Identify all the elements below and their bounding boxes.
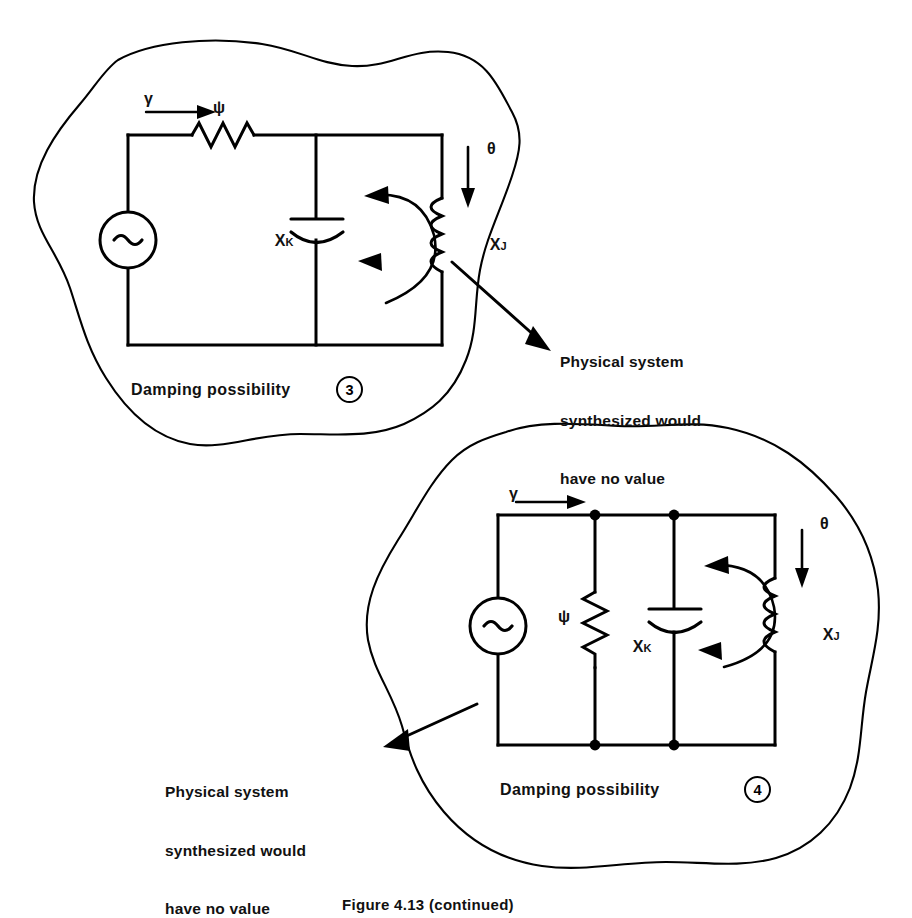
note-upper: Physical system synthesized would have n… xyxy=(560,313,701,528)
figure-caption: Figure 4.13 (continued) xyxy=(342,896,514,913)
note-lower: Physical system synthesized would have n… xyxy=(165,743,306,918)
callout-arrow-lower-head xyxy=(383,729,410,751)
note-upper-line-3: have no value xyxy=(560,469,701,489)
note-upper-line-1: Physical system xyxy=(560,352,701,372)
note-lower-line-2: synthesized would xyxy=(165,841,306,861)
note-upper-line-2: synthesized would xyxy=(560,411,701,431)
note-lower-line-1: Physical system xyxy=(165,782,306,802)
callout-arrow-lower-line xyxy=(400,704,477,739)
note-lower-line-3: have no value xyxy=(165,899,306,918)
callout-arrow-upper-line xyxy=(452,262,536,337)
